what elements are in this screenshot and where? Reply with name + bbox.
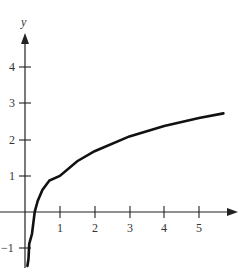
y-tick-label: 1 [9, 169, 15, 183]
x-tick-label: 3 [127, 221, 133, 235]
x-tick-label: 5 [196, 221, 202, 235]
x-tick-label: 2 [92, 221, 98, 235]
y-tick-label: 4 [9, 60, 15, 74]
x-axis-arrow-icon [227, 208, 238, 216]
x-tick-label: 4 [161, 221, 167, 235]
y-axis-label: y [20, 15, 27, 29]
y-tick-label: −1 [1, 241, 14, 255]
y-tick-label: 3 [9, 96, 15, 110]
y-axis-arrow-icon [21, 33, 29, 44]
chart: y 1 2 3 4 5 4 3 2 1 −1 [0, 0, 238, 268]
y-tick-label: 2 [9, 133, 15, 147]
curve-line [27, 113, 223, 266]
x-tick-label: 1 [57, 221, 63, 235]
